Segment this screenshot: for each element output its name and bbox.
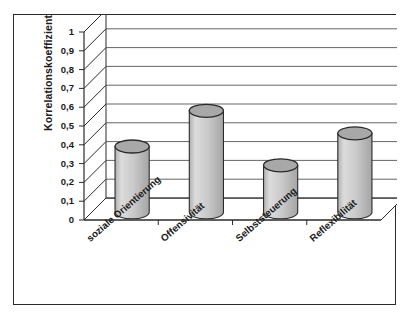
y-tick-depth-line [84, 104, 106, 126]
y-axis-tick-label: 0,3 [48, 158, 74, 169]
y-axis-tick-label: 0,1 [48, 195, 74, 206]
y-axis-tick-label: 0,7 [48, 82, 74, 93]
y-tick-depth-line [84, 160, 106, 182]
y-axis-tick-label: 1 [48, 26, 74, 37]
y-tick-depth-line [84, 179, 106, 201]
y-tick-depth-line [84, 123, 106, 145]
y-axis-tick-label: 0 [48, 214, 74, 225]
bar-top-ellipse [338, 127, 372, 140]
bar-cylinder [189, 104, 223, 219]
y-axis-tick-label: 0,2 [48, 176, 74, 187]
bar-top-ellipse [264, 159, 298, 172]
y-axis-tick-label: 0,6 [48, 101, 74, 112]
y-tick-depth-line [84, 85, 106, 107]
y-axis-tick-label: 0,4 [48, 139, 74, 150]
y-axis-tick-label: 0,8 [48, 64, 74, 75]
y-axis-tick-label: 0,5 [48, 120, 74, 131]
y-tick-depth-line [84, 48, 106, 70]
bar-top-ellipse [115, 140, 149, 153]
bar-top-ellipse [189, 104, 223, 117]
y-tick-depth-line [84, 29, 106, 51]
figure-frame: Korrelationskoeffizient 00,10,20,30,40,5… [13, 14, 396, 305]
y-tick-depth-line [84, 142, 106, 164]
y-tick-depth-line [84, 66, 106, 88]
chart-figure: Korrelationskoeffizient 00,10,20,30,40,5… [0, 0, 414, 320]
y-tick-depth-line [84, 15, 106, 32]
y-axis-tick-label: 0,9 [48, 45, 74, 56]
